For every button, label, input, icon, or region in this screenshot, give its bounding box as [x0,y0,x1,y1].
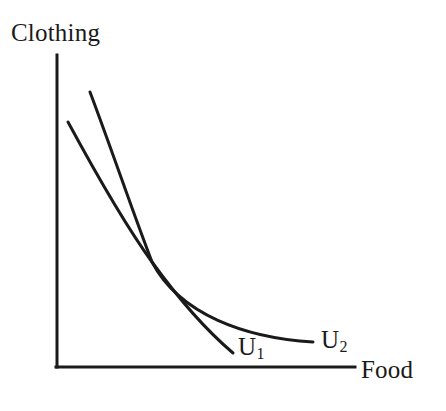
axes-group [56,55,355,367]
figure-canvas [0,0,446,411]
curve-label-u2-base: U [321,326,339,353]
x-axis-label: Food [361,357,413,382]
indifference-curve-u1 [68,122,233,353]
curve-label-u1-base: U [238,333,256,360]
curves-group [68,92,313,353]
curve-label-u2-subscript: 2 [339,338,348,355]
curve-label-u2: U2 [321,327,348,352]
curve-label-u1: U1 [238,334,265,359]
curve-label-u1-subscript: 1 [256,345,265,362]
y-axis-label: Clothing [11,20,100,45]
indifference-curve-figure: Clothing Food U1 U2 [0,0,446,411]
